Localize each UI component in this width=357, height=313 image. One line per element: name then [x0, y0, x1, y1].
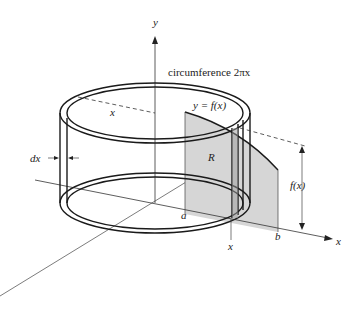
dx-arrow-right-icon — [54, 156, 59, 160]
radius-dashed-line — [78, 97, 155, 113]
radius-label: x — [109, 106, 115, 118]
shell-method-diagram: y x circumference 2πx y = f(x) x dx R a … — [0, 0, 357, 313]
dx-arrow-left-icon — [68, 156, 73, 160]
upper-limit-label: b — [275, 230, 281, 242]
height-arrow-up-icon — [299, 146, 305, 153]
circumference-label: circumference 2πx — [168, 66, 251, 78]
region-label: R — [207, 151, 215, 163]
y-axis-label: y — [152, 16, 158, 28]
height-label: f(x) — [290, 179, 306, 192]
dx-label: dx — [30, 152, 41, 164]
shell-slice — [232, 128, 238, 218]
shell-position-label: x — [227, 240, 233, 252]
function-label: y = f(x) — [192, 99, 226, 112]
height-arrow-down-icon — [299, 223, 305, 230]
x-axis-label: x — [335, 235, 341, 247]
y-axis-arrow-icon — [152, 36, 158, 44]
x-axis-arrow-icon — [324, 235, 333, 241]
lower-limit-label: a — [181, 209, 187, 221]
